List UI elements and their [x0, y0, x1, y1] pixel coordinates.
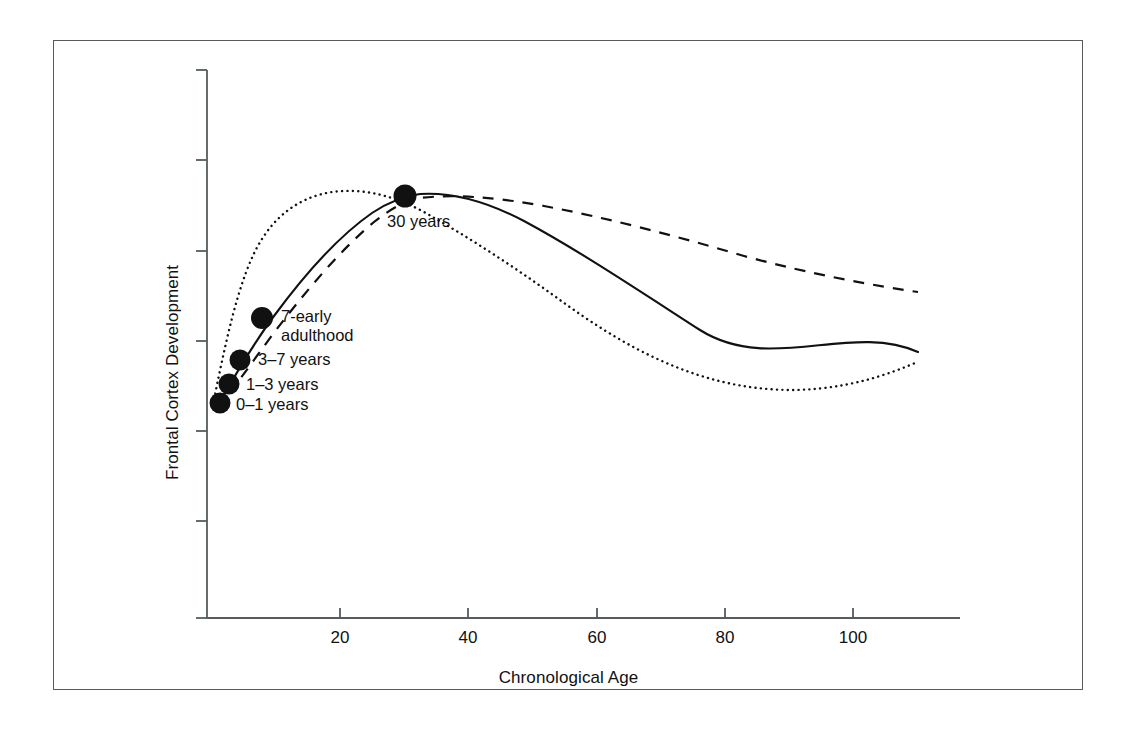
annotation-0-1-years: 0–1 years	[236, 395, 308, 414]
marker-7-early-adulthood[interactable]	[251, 307, 273, 329]
annotation-7-early-adulthood: 7-early adulthood	[281, 307, 354, 345]
figure-root: Chronological Age Frontal Cortex Develop…	[0, 0, 1137, 737]
annotation-3-7-years: 3–7 years	[258, 350, 330, 369]
solid-trajectory-line	[218, 194, 918, 404]
y-axis-title: Frontal Cortex Development	[163, 265, 183, 480]
marker-3-7-years[interactable]	[230, 350, 251, 371]
marker-0-1-years[interactable]	[210, 393, 231, 414]
marker-30-years[interactable]	[394, 185, 417, 208]
marker-1-3-years[interactable]	[219, 374, 240, 395]
x-tick-label-80: 80	[695, 628, 755, 648]
x-tick-label-20: 20	[310, 628, 370, 648]
x-tick-label-100: 100	[823, 628, 883, 648]
dotted-trajectory-line	[213, 191, 915, 404]
dashed-trajectory-line	[216, 196, 918, 408]
x-axis-title: Chronological Age	[0, 668, 1137, 688]
annotation-1-3-years: 1–3 years	[246, 375, 318, 394]
y-axis-ticks	[196, 70, 207, 618]
x-tick-label-60: 60	[567, 628, 627, 648]
x-axis-ticks	[340, 608, 853, 618]
x-tick-label-40: 40	[438, 628, 498, 648]
annotation-30-years: 30 years	[387, 212, 450, 231]
